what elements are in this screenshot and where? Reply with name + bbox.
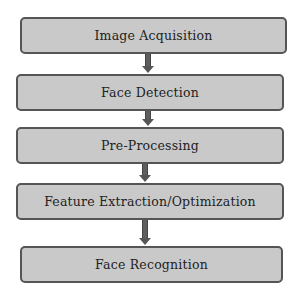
step-label: Feature Extraction/Optimization xyxy=(44,194,256,209)
step-label: Pre-Processing xyxy=(101,138,199,153)
step-face-detection: Face Detection xyxy=(16,74,284,111)
arrow-down-icon xyxy=(142,111,154,127)
arrow-down-icon xyxy=(139,164,151,183)
step-label: Face Detection xyxy=(101,85,199,100)
step-face-recognition: Face Recognition xyxy=(20,246,283,283)
arrow-down-icon xyxy=(142,54,154,74)
step-pre-processing: Pre-Processing xyxy=(16,127,284,164)
arrow-down-icon xyxy=(139,220,151,246)
step-feature-extraction: Feature Extraction/Optimization xyxy=(16,183,284,220)
step-label: Face Recognition xyxy=(95,257,208,272)
step-image-acquisition: Image Acquisition xyxy=(20,17,287,54)
step-label: Image Acquisition xyxy=(94,28,212,43)
